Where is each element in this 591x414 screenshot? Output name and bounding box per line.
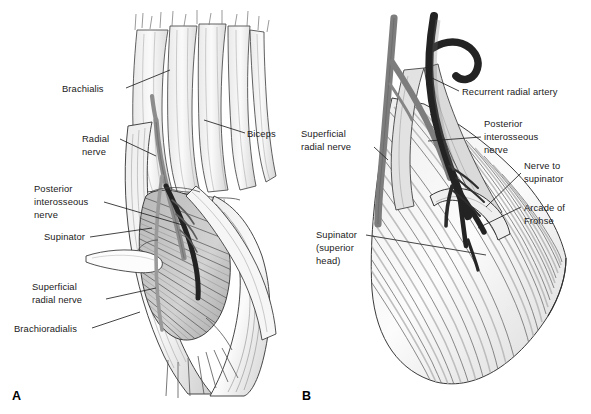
label-nerve-to-supinator-line2: supinator [524, 173, 563, 184]
label-brachioradialis-text: Brachioradialis [14, 323, 77, 334]
label-srn-a-line2: radial nerve [32, 294, 82, 305]
label-pin-b-line3: nerve [484, 144, 508, 155]
label-recurrent-radial-artery-text: Recurrent radial artery [462, 86, 558, 97]
label-pin-a-line3: nerve [34, 209, 58, 220]
label-arcade-of-frohse-line1: Arcade of [524, 202, 565, 213]
panel-a-letter: A [12, 389, 21, 403]
label-arcade-of-frohse-line2: Frohse [524, 215, 554, 226]
figure-canvas: Brachialis Radial nerve Posterior intero… [0, 0, 591, 414]
label-radial-nerve-line1: Radial [82, 133, 109, 144]
label-pin-a-line2: interosseous [34, 196, 89, 207]
label-pin-b-line2: interosseous [484, 131, 539, 142]
anatomical-figure: Brachialis Radial nerve Posterior intero… [0, 0, 591, 414]
label-brachialis-text: Brachialis [62, 83, 104, 94]
label-radial-nerve-line2: nerve [82, 146, 106, 157]
label-srn-b-line2: radial nerve [301, 141, 351, 152]
label-supinator-superior-head-line1: Supinator [316, 229, 357, 240]
label-biceps-text: Biceps [247, 128, 276, 139]
label-srn-b-line1: Superficial [301, 128, 346, 139]
label-srn-a-line1: Superficial [32, 281, 77, 292]
panel-b-letter: B [302, 389, 311, 403]
label-nerve-to-supinator-line1: Nerve to [524, 160, 560, 171]
label-supinator-superior-head-line2: (superior [316, 242, 354, 253]
label-pin-b-line1: Posterior [484, 118, 522, 129]
label-supinator-a-text: Supinator [44, 231, 85, 242]
label-supinator-superior-head-line3: head) [316, 255, 340, 266]
label-pin-a-line1: Posterior [34, 183, 72, 194]
